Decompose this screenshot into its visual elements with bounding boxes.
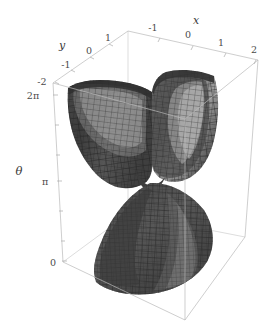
y-tick-1: 1 xyxy=(105,32,111,43)
x-axis-label: x xyxy=(193,14,200,27)
surface-lobe-upper-right xyxy=(145,62,230,192)
surface-lobe-lower xyxy=(86,178,220,302)
x-tick-1: 1 xyxy=(218,37,224,48)
x-tick-2: 2 xyxy=(251,44,257,55)
y-tick-minus2: -2 xyxy=(37,76,46,87)
y-tick-0: 0 xyxy=(86,45,92,56)
theta-tick-2pi: 2π xyxy=(27,90,39,101)
x-tick-minus1: -1 xyxy=(148,22,157,33)
theta-tick-0: 0 xyxy=(50,257,56,268)
y-tick-minus1: -1 xyxy=(61,59,70,70)
x-axis-ticks xyxy=(158,38,256,64)
surface-lobe-upper-left xyxy=(55,70,165,200)
x-tick-0: 0 xyxy=(185,29,191,40)
theta-tick-pi: π xyxy=(42,176,48,187)
surface-plot-figure: x -1 0 1 2 y 1 0 -1 -2 θ 2π π 0 xyxy=(0,0,272,336)
y-axis-label: y xyxy=(58,39,66,52)
theta-axis-label: θ xyxy=(16,164,23,178)
surface-mesh xyxy=(55,62,230,302)
plot-root: x -1 0 1 2 y 1 0 -1 -2 θ 2π π 0 xyxy=(0,0,272,336)
